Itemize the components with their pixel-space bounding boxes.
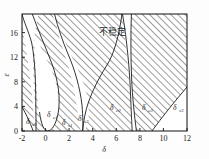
- y-tick-label: 8: [14, 78, 18, 87]
- y-tick-label: 4: [14, 102, 18, 111]
- curve-label-sub: c1: [53, 115, 58, 120]
- x-tick-label: 10: [159, 134, 167, 143]
- curve-label-sub: s1: [68, 123, 72, 128]
- x-tick-label: 8: [138, 134, 142, 143]
- curve-label-base: δ: [142, 103, 146, 112]
- curve-label-sub: c3: [148, 108, 153, 113]
- x-tick-label: -2: [19, 134, 26, 143]
- x-tick-label: 6: [114, 134, 118, 143]
- curve-label-base: δ: [62, 118, 66, 127]
- x-tick-label: 2: [67, 134, 71, 143]
- curve-label-base: δ: [47, 110, 51, 119]
- curve-label-base: δ: [78, 114, 82, 123]
- stability-chart-svg: 0 4 8 12 16 -2: [0, 0, 209, 159]
- y-tick-label: 0: [14, 127, 18, 136]
- x-axis-title: δ: [102, 145, 106, 154]
- curve-label-sub: s0: [32, 122, 37, 127]
- stability-chart-figure: 0 4 8 12 16 -2: [0, 0, 209, 159]
- y-axis-title: ε: [2, 73, 11, 77]
- curve-label-base: δ: [26, 117, 30, 126]
- x-tick-label: 12: [183, 134, 191, 143]
- curve-label-sub: s2: [84, 119, 89, 124]
- curve-label-base: δ: [173, 103, 177, 112]
- curve-label-sub: s3: [179, 108, 184, 113]
- curve-label-base: δ: [110, 103, 114, 112]
- x-tick-label: 4: [91, 134, 95, 143]
- x-tick-label: 0: [44, 134, 48, 143]
- curve-label-sub: c2: [116, 108, 121, 113]
- y-tick-label: 12: [10, 53, 18, 62]
- unstable-region-label: 不稳定: [99, 26, 126, 37]
- y-tick-label: 16: [10, 29, 18, 38]
